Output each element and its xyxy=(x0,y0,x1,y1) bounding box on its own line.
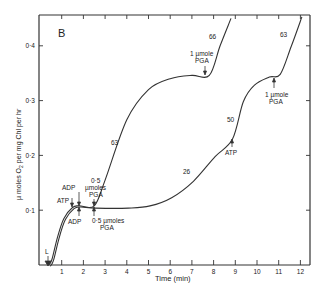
x-tick-label: 12 xyxy=(297,268,305,275)
x-tick-label: 8 xyxy=(212,268,216,275)
rate-label-66: 66 xyxy=(209,33,217,40)
y-tick-label: 0·3 xyxy=(26,97,36,104)
svg-text:µ moles O2 per mg Chl per hr: µ moles O2 per mg Chl per hr xyxy=(15,108,24,200)
adp-label-bottom: ADP xyxy=(68,218,81,225)
rate-label-26: 26 xyxy=(183,168,191,175)
y-axis-label: µ moles O2 per mg Chl per hr xyxy=(15,108,24,200)
x-tick-label: 11 xyxy=(275,268,282,275)
light-on-label: L xyxy=(45,248,49,255)
x-axis-label: Time (min) xyxy=(155,274,191,283)
x-tick-label: 7 xyxy=(190,268,194,275)
y-tick-label: 0·2 xyxy=(26,152,36,159)
pga-label-bottom-2: PGA xyxy=(100,224,114,231)
pga-label-right-2: PGA xyxy=(269,98,283,105)
x-tick-label: 2 xyxy=(82,268,86,275)
x-tick-label: 1 xyxy=(60,268,64,275)
x-tick-label: 9 xyxy=(233,268,237,275)
x-tick-label: 10 xyxy=(253,268,261,275)
x-tick-label: 3 xyxy=(103,268,107,275)
y-tick-label: 0·4 xyxy=(26,42,36,49)
adp-label-top: ADP xyxy=(62,184,75,191)
oxygen-evolution-chart: 123456789101112 0·10·20·30·4 B Time (min… xyxy=(0,0,323,296)
x-tick-label: 4 xyxy=(125,268,129,275)
y-tick-label: 0·1 xyxy=(26,207,36,214)
pga-label-upper-2: PGA xyxy=(195,57,209,64)
annotation-arrows xyxy=(45,66,276,266)
atp-label-2: ATP xyxy=(225,149,237,156)
rate-label-63-right: 63 xyxy=(280,31,288,38)
annotations: L ATP ADP ADP 0·5 µmoles PGA 0·5 µmoles … xyxy=(45,50,289,255)
rate-label-50: 50 xyxy=(227,116,235,123)
atp-label-1: ATP xyxy=(57,197,69,204)
rate-label-63-upper: 63 xyxy=(111,139,119,146)
data-curves xyxy=(49,17,302,266)
plot-frame xyxy=(39,15,310,265)
pga-label-top-3: PGA xyxy=(89,191,103,198)
lower-trace xyxy=(50,17,302,266)
pga-label-top-1: 0·5 xyxy=(91,177,101,184)
panel-label: B xyxy=(58,27,65,39)
x-axis-ticks: 123456789101112 xyxy=(60,15,305,275)
x-tick-label: 5 xyxy=(147,268,151,275)
